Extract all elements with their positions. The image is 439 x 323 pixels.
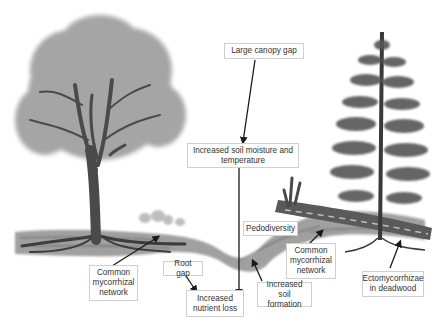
arrow-canopy-to-moisture [243, 60, 255, 142]
label-root-gap: Root gap [163, 261, 203, 276]
forest-gap-diagram: Large canopy gap Increased soil moisture… [0, 0, 439, 323]
label-ectomycorrhizae-deadwood: Ectomycorrhizae in deadwood [362, 271, 424, 297]
tree-canopy [15, 15, 186, 160]
label-pedodiversity: Pedodiversity [243, 221, 298, 236]
label-common-network-left: Common mycorrhizal network [89, 265, 138, 301]
label-common-network-right: Common mycorrhizal network [286, 243, 336, 279]
label-soil-moisture-temperature: Increased soil moisture and temperature [187, 143, 299, 168]
deciduous-tree [15, 15, 186, 240]
label-nutrient-loss: Increased nutrient loss [186, 290, 244, 317]
arrow-ectomycorrhizae [390, 242, 400, 268]
label-large-canopy-gap: Large canopy gap [224, 43, 304, 59]
seedlings [139, 210, 185, 226]
label-soil-formation: Increased soil formation [257, 282, 312, 307]
